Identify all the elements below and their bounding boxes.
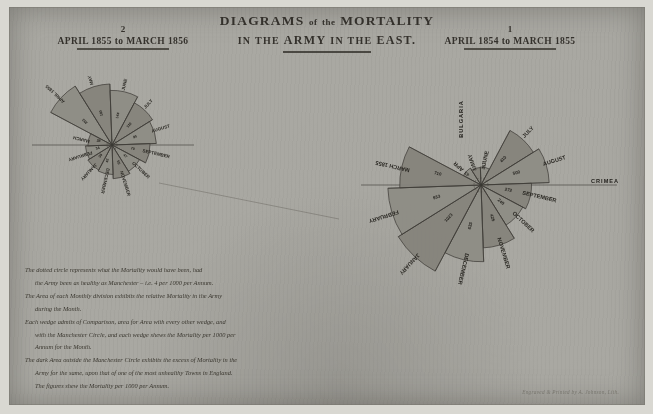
title-word-army: ARMY <box>284 33 327 47</box>
title-underline <box>283 51 371 53</box>
title-word-the3: THE <box>348 35 373 46</box>
caption-line: The dark Area outside the Manchester Cir… <box>25 355 263 364</box>
title-word-of: of <box>309 17 318 27</box>
caption-line: The dotted circle represents what the Mo… <box>25 265 263 274</box>
caption-line: The Area of each Monthly division exhibi… <box>25 291 263 300</box>
panel-underline-right <box>464 48 556 50</box>
panel-number-left: 2 <box>33 24 213 34</box>
caption-line: the Army been as healthy as Manchester –… <box>25 278 263 287</box>
lithograph-plate: DIAGRAMS of the MORTALITY IN THE ARMY IN… <box>9 7 645 405</box>
caption-block: The dotted circle represents what the Mo… <box>25 265 263 394</box>
title-word-the2: THE <box>255 35 280 46</box>
title-word-east: EAST. <box>376 33 416 47</box>
caption-line: Annum for the Month. <box>25 342 263 351</box>
caption-line: Army for the same, upon that of one of t… <box>25 368 263 377</box>
title-word-diagrams: DIAGRAMS <box>220 13 305 28</box>
caption-line: Each wedge admits of Comparison, area fo… <box>25 317 263 326</box>
caption-line: with the Manchester Circle, and each wed… <box>25 330 263 339</box>
title-word-in3: IN <box>330 35 344 46</box>
title-word-the: the <box>322 17 336 27</box>
panel-heading-right: 1 APRIL 1854 to MARCH 1855 <box>415 24 605 50</box>
panel-heading-left: 2 APRIL 1855 to MARCH 1856 <box>33 24 213 50</box>
panel-period-right: APRIL 1854 to MARCH 1855 <box>415 36 605 46</box>
panel-number-right: 1 <box>415 24 605 34</box>
caption-line: The figures shew the Mortality per 1000 … <box>25 381 263 390</box>
panel-underline-left <box>77 48 169 50</box>
title-word-in: IN <box>238 35 252 46</box>
panel-period-left: APRIL 1855 to MARCH 1856 <box>33 36 213 46</box>
caption-line: during the Month. <box>25 304 263 313</box>
engraver-signature: Engraved & Printed by A. Johnson, Lith. <box>522 389 619 395</box>
